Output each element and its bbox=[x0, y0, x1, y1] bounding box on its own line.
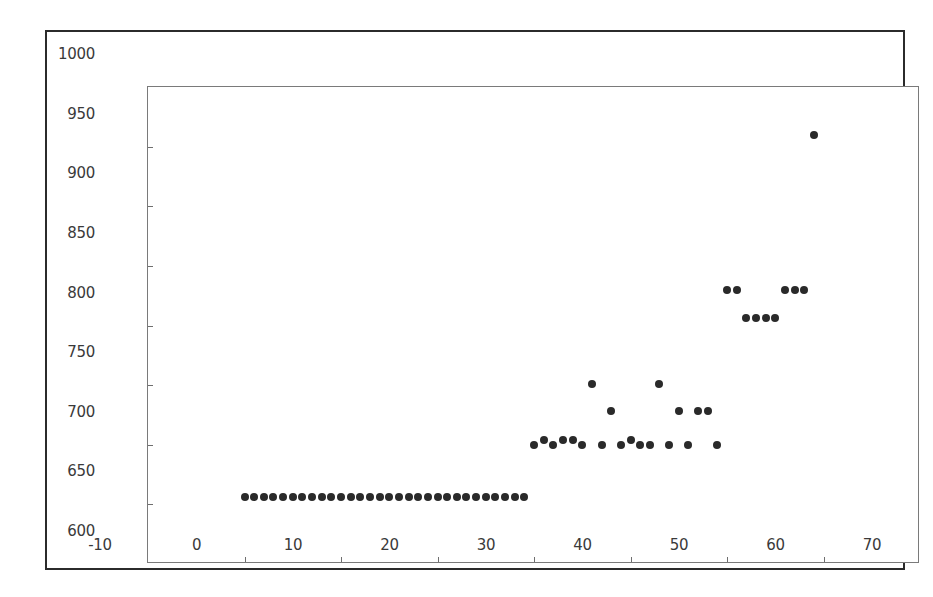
x-axis-tick-label: 0 bbox=[192, 536, 201, 554]
x-axis-tick-label: -10 bbox=[88, 536, 112, 554]
data-point bbox=[723, 286, 731, 294]
y-axis-tick-label: 800 bbox=[67, 284, 95, 302]
data-point bbox=[279, 493, 287, 501]
y-axis-tick-mark bbox=[148, 326, 153, 327]
y-axis-tick-label: 900 bbox=[67, 164, 95, 182]
x-axis-tick-label: 30 bbox=[477, 536, 496, 554]
x-axis-tick-label: 50 bbox=[670, 536, 689, 554]
data-point bbox=[405, 493, 413, 501]
data-point bbox=[598, 441, 606, 449]
data-point bbox=[366, 493, 374, 501]
x-axis-tick-label: 20 bbox=[380, 536, 399, 554]
data-point bbox=[269, 493, 277, 501]
y-axis-tick-mark bbox=[148, 445, 153, 446]
figure-outer-border bbox=[45, 30, 905, 570]
data-point bbox=[607, 407, 615, 415]
data-point bbox=[347, 493, 355, 501]
data-point bbox=[530, 441, 538, 449]
data-point bbox=[482, 493, 490, 501]
x-axis-tick-labels: -10010203040506070 bbox=[100, 536, 872, 560]
data-point bbox=[559, 436, 567, 444]
y-axis-tick-mark bbox=[148, 266, 153, 267]
data-point bbox=[308, 493, 316, 501]
data-point bbox=[771, 314, 779, 322]
data-point bbox=[462, 493, 470, 501]
y-axis-tick-label: 1000 bbox=[58, 45, 95, 63]
y-axis-tick-mark bbox=[148, 385, 153, 386]
plot-axes-frame bbox=[147, 86, 919, 563]
x-axis-tick-label: 40 bbox=[573, 536, 592, 554]
data-point bbox=[752, 314, 760, 322]
data-point bbox=[636, 441, 644, 449]
y-axis-tick-mark bbox=[148, 147, 153, 148]
data-point bbox=[298, 493, 306, 501]
data-point bbox=[713, 441, 721, 449]
data-point bbox=[762, 314, 770, 322]
y-axis-tick-mark bbox=[148, 504, 153, 505]
data-point bbox=[327, 493, 335, 501]
y-axis-tick-labels: 6006507007508008509009501000 bbox=[45, 54, 95, 531]
y-axis-tick-mark bbox=[148, 206, 153, 207]
data-point bbox=[781, 286, 789, 294]
data-point bbox=[800, 286, 808, 294]
data-point bbox=[694, 407, 702, 415]
x-axis-tick-label: 60 bbox=[766, 536, 785, 554]
data-point bbox=[491, 493, 499, 501]
data-point bbox=[704, 407, 712, 415]
data-point bbox=[241, 493, 249, 501]
y-axis-tick-label: 700 bbox=[67, 403, 95, 421]
data-point bbox=[424, 493, 432, 501]
data-point bbox=[385, 493, 393, 501]
data-point bbox=[733, 286, 741, 294]
data-point bbox=[540, 436, 548, 444]
data-point bbox=[627, 436, 635, 444]
data-point bbox=[588, 380, 596, 388]
data-point bbox=[376, 493, 384, 501]
figure-root: 6006507007508008509009501000 -1001020304… bbox=[0, 0, 933, 597]
plot-data-area bbox=[148, 87, 918, 562]
data-point bbox=[578, 441, 586, 449]
data-point bbox=[742, 314, 750, 322]
data-point bbox=[655, 380, 663, 388]
y-axis-tick-label: 950 bbox=[67, 105, 95, 123]
data-point bbox=[549, 441, 557, 449]
data-point bbox=[520, 493, 528, 501]
data-point bbox=[318, 493, 326, 501]
data-point bbox=[646, 441, 654, 449]
data-point bbox=[684, 441, 692, 449]
data-point bbox=[617, 441, 625, 449]
data-point bbox=[453, 493, 461, 501]
data-point bbox=[289, 493, 297, 501]
data-point bbox=[810, 131, 818, 139]
data-point bbox=[443, 493, 451, 501]
x-axis-tick-label: 10 bbox=[284, 536, 303, 554]
data-point bbox=[665, 441, 673, 449]
data-point bbox=[260, 493, 268, 501]
data-point bbox=[501, 493, 509, 501]
data-point bbox=[414, 493, 422, 501]
y-axis-tick-label: 750 bbox=[67, 343, 95, 361]
data-point bbox=[569, 436, 577, 444]
x-axis-tick-label: 70 bbox=[863, 536, 882, 554]
y-axis-tick-label: 850 bbox=[67, 224, 95, 242]
data-point bbox=[434, 493, 442, 501]
data-point bbox=[356, 493, 364, 501]
data-point bbox=[472, 493, 480, 501]
data-point bbox=[395, 493, 403, 501]
data-point bbox=[250, 493, 258, 501]
data-point bbox=[337, 493, 345, 501]
data-point bbox=[675, 407, 683, 415]
y-axis-tick-label: 650 bbox=[67, 462, 95, 480]
data-point bbox=[511, 493, 519, 501]
data-point bbox=[791, 286, 799, 294]
